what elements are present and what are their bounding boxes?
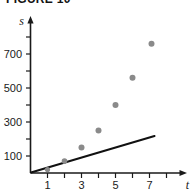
y-axis-arrow-icon xyxy=(27,16,33,24)
y-tick-label-100: 100 xyxy=(4,150,22,162)
data-point xyxy=(130,75,136,81)
y-tick-label-700: 700 xyxy=(4,48,22,60)
trend-line xyxy=(31,136,155,173)
data-point xyxy=(96,128,102,134)
figure-container: FIGURE 10 xyxy=(0,0,195,191)
data-point xyxy=(79,145,85,151)
y-tick-label-300: 300 xyxy=(4,116,22,128)
y-axis-label: s xyxy=(19,14,24,28)
data-point xyxy=(113,102,119,108)
x-tick-label-1: 1 xyxy=(44,179,50,191)
data-point xyxy=(62,158,68,164)
x-tick-label-5: 5 xyxy=(112,179,118,191)
x-axis-label: t xyxy=(186,178,190,191)
x-axis-arrow-icon xyxy=(180,170,188,176)
x-tick-label-3: 3 xyxy=(78,179,84,191)
x-tick-label-7: 7 xyxy=(146,179,152,191)
y-tick-label-500: 500 xyxy=(4,82,22,94)
data-point xyxy=(45,167,50,172)
data-point xyxy=(149,41,155,47)
scatter-plot: 100 300 500 700 1 3 5 7 s t xyxy=(0,0,195,191)
